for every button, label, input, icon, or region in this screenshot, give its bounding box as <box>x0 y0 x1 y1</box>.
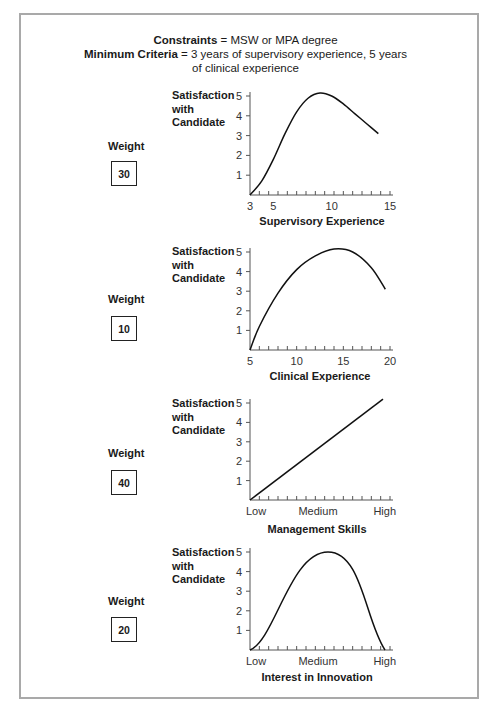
y-tick-label: 4 <box>236 110 242 122</box>
x-tick-label: 15 <box>337 355 349 367</box>
y-tick-label: 2 <box>236 455 242 467</box>
plots-canvas: 1234535101512345510152012345LowMediumHig… <box>0 0 491 715</box>
y-tick-label: 3 <box>236 285 242 297</box>
x-tick-label: 5 <box>247 355 253 367</box>
x-tick-label: High <box>373 655 396 667</box>
x-tick-label: High <box>373 505 396 517</box>
x-tick-label: 5 <box>270 200 276 212</box>
satisfaction-curve <box>250 552 385 650</box>
satisfaction-curve <box>250 399 383 500</box>
y-tick-label: 2 <box>236 305 242 317</box>
y-tick-label: 3 <box>236 436 242 448</box>
chart-2: 123455101520 <box>236 246 396 367</box>
y-tick-label: 5 <box>236 246 242 258</box>
x-tick-label: Medium <box>298 505 337 517</box>
y-tick-label: 5 <box>236 90 242 102</box>
y-tick-label: 1 <box>236 169 242 181</box>
y-tick-label: 5 <box>236 397 242 409</box>
y-tick-label: 4 <box>236 266 242 278</box>
x-tick-label: 3 <box>247 200 253 212</box>
x-tick-label: 20 <box>384 355 396 367</box>
y-tick-label: 3 <box>236 130 242 142</box>
satisfaction-curve <box>250 249 385 350</box>
chart-1: 12345351015 <box>236 90 396 212</box>
y-tick-label: 1 <box>236 324 242 336</box>
x-tick-label: Low <box>246 505 266 517</box>
y-tick-label: 1 <box>236 624 242 636</box>
y-tick-label: 1 <box>236 475 242 487</box>
x-tick-label: 10 <box>291 355 303 367</box>
y-tick-label: 2 <box>236 605 242 617</box>
y-tick-label: 3 <box>236 585 242 597</box>
x-tick-label: 10 <box>326 200 338 212</box>
x-tick-label: 15 <box>384 200 396 212</box>
x-tick-label: Medium <box>298 655 337 667</box>
chart-4: 12345LowMediumHigh <box>236 546 396 667</box>
satisfaction-curve <box>250 93 378 195</box>
x-tick-label: Low <box>246 655 266 667</box>
y-tick-label: 2 <box>236 149 242 161</box>
y-tick-label: 5 <box>236 546 242 558</box>
y-tick-label: 4 <box>236 416 242 428</box>
chart-3: 12345LowMediumHigh <box>236 397 396 517</box>
y-tick-label: 4 <box>236 566 242 578</box>
